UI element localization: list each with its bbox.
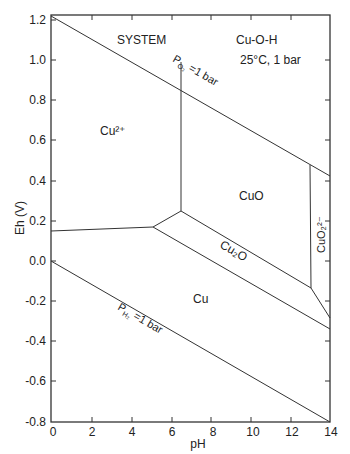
ph2-annotation: PH₂ =1 bar xyxy=(115,300,165,337)
cuo2-cu2o-boundary xyxy=(311,288,330,318)
svg-text:0.4: 0.4 xyxy=(29,174,46,188)
svg-text:PO₂ =1 bar: PO₂ =1 bar xyxy=(170,52,221,89)
po2-line xyxy=(51,16,330,176)
svg-text:-0.2: -0.2 xyxy=(25,294,46,308)
ph2-line xyxy=(51,261,330,422)
pourbaix-diagram: 1.2 1.0 0.8 0.6 0.4 0.2 0.0 -0.2 -0.4 -0… xyxy=(0,0,350,454)
region-cu2-label: Cu²⁺ xyxy=(100,124,125,138)
svg-text:0.0: 0.0 xyxy=(29,254,46,268)
svg-text:-0.6: -0.6 xyxy=(25,374,46,388)
plot-frame xyxy=(51,15,330,422)
cuo-cuo2-boundary xyxy=(310,165,311,288)
svg-text:PH₂ =1 bar: PH₂ =1 bar xyxy=(115,300,165,337)
svg-text:-0.4: -0.4 xyxy=(25,334,46,348)
svg-text:1.0: 1.0 xyxy=(29,53,46,67)
region-cu2o-label: Cu₂O xyxy=(218,237,250,264)
svg-text:10: 10 xyxy=(246,425,260,439)
phase-boundaries xyxy=(51,16,330,422)
po2-annotation: PO₂ =1 bar xyxy=(170,52,221,89)
svg-text:0.8: 0.8 xyxy=(29,93,46,107)
system-formula: Cu-O-H xyxy=(236,33,277,47)
cu2-cu-boundary xyxy=(51,227,153,231)
svg-text:1.2: 1.2 xyxy=(29,13,46,27)
x-axis-ticks xyxy=(92,15,291,422)
y-tick-labels: 1.2 1.0 0.8 0.6 0.4 0.2 0.0 -0.2 -0.4 -0… xyxy=(25,13,46,429)
x-axis-label: pH xyxy=(190,437,205,451)
system-label: SYSTEM xyxy=(117,33,166,47)
y-axis-label: Eh (V) xyxy=(13,201,27,235)
svg-text:0: 0 xyxy=(50,425,57,439)
cu2-cu2o-boundary xyxy=(153,211,181,227)
svg-text:-0.8: -0.8 xyxy=(25,415,46,429)
svg-text:14: 14 xyxy=(324,425,338,439)
svg-text:8: 8 xyxy=(210,425,217,439)
conditions-label: 25°C, 1 bar xyxy=(240,53,301,67)
region-cu-label: Cu xyxy=(193,292,208,306)
region-cuo-label: CuO xyxy=(239,189,264,203)
svg-text:6: 6 xyxy=(169,425,176,439)
svg-text:4: 4 xyxy=(129,425,136,439)
region-cuo2-label: CuO₂²⁻ xyxy=(315,216,327,253)
svg-text:0.2: 0.2 xyxy=(29,214,46,228)
y-axis-ticks xyxy=(51,20,330,381)
svg-text:0.6: 0.6 xyxy=(29,133,46,147)
svg-text:12: 12 xyxy=(285,425,299,439)
cu2o-cu-boundary xyxy=(153,227,330,329)
svg-text:2: 2 xyxy=(89,425,96,439)
